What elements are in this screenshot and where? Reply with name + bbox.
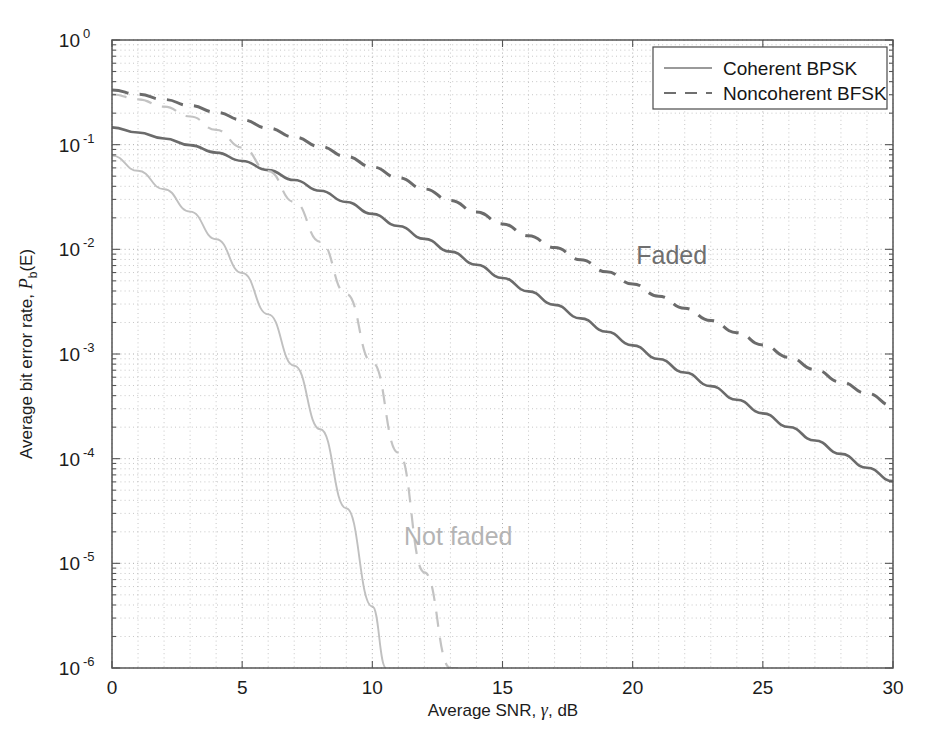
legend-label-1: Noncoherent BFSK [723, 83, 887, 104]
svg-text:Average SNR, γ, dB: Average SNR, γ, dB [428, 700, 578, 720]
x-tick-label-5: 25 [752, 677, 773, 698]
x-tick-label-1: 5 [237, 677, 248, 698]
annotation-faded: Faded [636, 241, 707, 269]
y-tick-label-2: 10-2 [59, 235, 95, 260]
svg-text:-3: -3 [83, 340, 95, 355]
svg-text:Average bit error rate, Pb(E): Average bit error rate, Pb(E) [16, 249, 40, 459]
ylabel-tail: (E) [17, 249, 36, 272]
svg-text:10: 10 [59, 449, 80, 470]
x-tick-label-6: 30 [882, 677, 903, 698]
y-tick-label-5: 10-5 [59, 549, 95, 574]
svg-text:10: 10 [59, 658, 80, 679]
xlabel-post: , dB [548, 701, 578, 720]
x-tick-label-4: 20 [622, 677, 643, 698]
y-tick-label-1: 10-1 [59, 131, 95, 156]
svg-text:10: 10 [59, 239, 80, 260]
annotation-not-faded: Not faded [404, 522, 512, 550]
y-tick-label-4: 10-4 [59, 445, 95, 470]
svg-text:10: 10 [59, 135, 80, 156]
legend-label-0: Coherent BPSK [723, 58, 857, 79]
bit-error-rate-chart: 051015202530 10010-110-210-310-410-510-6… [0, 0, 943, 744]
svg-text:0: 0 [83, 26, 90, 41]
svg-text:10: 10 [59, 30, 80, 51]
svg-text:10: 10 [59, 344, 80, 365]
svg-text:-4: -4 [83, 445, 95, 460]
x-tick-label-0: 0 [107, 677, 118, 698]
x-tick-label-3: 15 [492, 677, 513, 698]
y-axis-title: Average bit error rate, Pb(E) [16, 249, 40, 459]
svg-text:-6: -6 [83, 654, 95, 669]
figure-container: 051015202530 10010-110-210-310-410-510-6… [0, 0, 943, 744]
y-tick-label-3: 10-3 [59, 340, 95, 365]
ylabel-italic: P [16, 278, 36, 290]
svg-text:-1: -1 [83, 131, 95, 146]
svg-text:-5: -5 [83, 549, 95, 564]
legend: Coherent BPSK Noncoherent BFSK [653, 47, 887, 109]
x-axis-title: Average SNR, γ, dB [428, 700, 578, 720]
x-tick-labels: 051015202530 [107, 677, 904, 698]
xlabel-pre: Average SNR, [428, 701, 541, 720]
y-tick-labels: 10010-110-210-310-410-510-6 [59, 26, 95, 679]
x-tick-label-2: 10 [362, 677, 383, 698]
ylabel-main: Average bit error rate, [17, 289, 36, 459]
svg-text:-2: -2 [83, 235, 95, 250]
y-tick-label-0: 100 [59, 26, 90, 51]
y-tick-label-6: 10-6 [59, 654, 95, 679]
svg-text:10: 10 [59, 553, 80, 574]
